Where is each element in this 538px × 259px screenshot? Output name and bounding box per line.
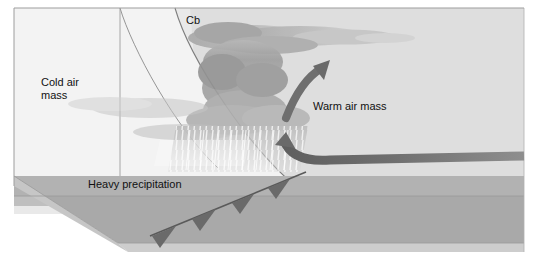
- cold-front-diagram: Cold air mass Warm air mass Cb Heavy pre…: [0, 0, 538, 259]
- diagram-canvas: [0, 0, 538, 259]
- label-heavy-precipitation: Heavy precipitation: [88, 178, 182, 191]
- label-cumulonimbus: Cb: [186, 14, 200, 27]
- label-cold-air-mass: Cold air mass: [41, 76, 79, 102]
- label-warm-air-mass: Warm air mass: [313, 100, 387, 113]
